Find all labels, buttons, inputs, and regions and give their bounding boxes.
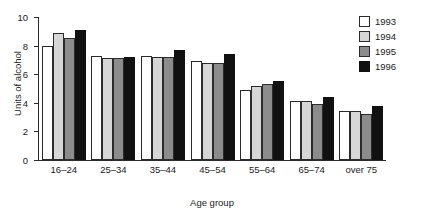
y-axis-tick: 4 <box>34 103 38 104</box>
x-axis-category-label: 55–64 <box>249 164 275 175</box>
bar-1995-35–44 <box>163 57 174 160</box>
plot-area: 0246810 16–2425–3435–4445–5455–6465–74ov… <box>38 17 386 160</box>
x-axis-category-label: 25–34 <box>100 164 126 175</box>
legend-item-1996: 1996 <box>359 59 396 74</box>
x-axis-category-label: over 75 <box>345 164 377 175</box>
bar-1996-45–54 <box>224 54 235 160</box>
x-axis-title: Age group <box>38 197 386 208</box>
legend-item-1994: 1994 <box>359 29 396 44</box>
bar-1993-55–64 <box>240 90 251 160</box>
x-axis-category-label: 35–44 <box>150 164 176 175</box>
y-axis-tick-label: 2 <box>23 126 28 137</box>
y-axis-tick: 10 <box>34 17 38 18</box>
bar-set <box>191 17 235 160</box>
legend-item-label: 1993 <box>375 16 396 27</box>
bar-1994-65–74 <box>301 101 312 160</box>
bar-1994-25–34 <box>102 58 113 160</box>
legend-item-1993: 1993 <box>359 14 396 29</box>
y-axis-tick: 8 <box>34 46 38 47</box>
bar-1994-35–44 <box>152 57 163 160</box>
bar-1993-16–24 <box>42 46 53 160</box>
bar-1993-65–74 <box>290 101 301 160</box>
bar-set <box>42 17 86 160</box>
legend-swatch-icon <box>359 31 370 42</box>
bar-1993-45–54 <box>191 61 202 160</box>
bar-groups: 16–2425–3435–4445–5455–6465–74over 75 <box>39 17 386 160</box>
y-axis-tick: 6 <box>34 74 38 75</box>
bar-1996-16–24 <box>75 30 86 160</box>
bar-1994-16–24 <box>53 33 64 160</box>
y-axis-tick: 0 <box>34 160 38 161</box>
x-axis-category-label: 65–74 <box>298 164 324 175</box>
x-axis-line <box>38 160 386 161</box>
bar-1993-over-75 <box>339 111 350 160</box>
legend-swatch-icon <box>359 46 370 57</box>
bar-1995-over-75 <box>361 114 372 160</box>
y-axis-tick-label: 0 <box>23 155 28 166</box>
y-axis-tick-label: 8 <box>23 40 28 51</box>
bar-1994-45–54 <box>202 63 213 160</box>
bar-group: 25–34 <box>89 17 139 160</box>
bar-1993-35–44 <box>141 56 152 160</box>
bar-1994-over-75 <box>350 111 361 160</box>
y-axis-tick-label: 6 <box>23 69 28 80</box>
legend-item-label: 1995 <box>375 46 396 57</box>
y-axis-title: Units of alcohol <box>12 29 23 139</box>
bar-group: 55–64 <box>237 17 287 160</box>
bar-group: 35–44 <box>138 17 188 160</box>
legend-swatch-icon <box>359 16 370 27</box>
bar-set <box>91 17 135 160</box>
y-axis-tick: 2 <box>34 131 38 132</box>
bar-1996-over-75 <box>372 106 383 160</box>
bar-1996-55–64 <box>273 81 284 160</box>
bar-1995-16–24 <box>64 38 75 160</box>
legend-item-label: 1994 <box>375 31 396 42</box>
bar-1995-45–54 <box>213 63 224 160</box>
bar-group: 45–54 <box>188 17 238 160</box>
bar-group: 16–24 <box>39 17 89 160</box>
x-axis-category-label: 45–54 <box>199 164 225 175</box>
legend-item-label: 1996 <box>375 61 396 72</box>
bar-chart: Units of alcohol 0246810 16–2425–3435–44… <box>0 0 424 222</box>
bar-1996-35–44 <box>174 50 185 160</box>
x-axis-category-label: 16–24 <box>51 164 77 175</box>
legend-item-1995: 1995 <box>359 44 396 59</box>
bar-set <box>240 17 284 160</box>
bar-1994-55–64 <box>251 86 262 160</box>
bar-1996-25–34 <box>124 57 135 160</box>
legend-swatch-icon <box>359 61 370 72</box>
bar-1995-25–34 <box>113 58 124 160</box>
y-axis-tick-label: 4 <box>23 97 28 108</box>
bar-set <box>290 17 334 160</box>
legend: 1993199419951996 <box>359 14 396 74</box>
y-axis-tick-label: 10 <box>17 12 28 23</box>
bar-1995-65–74 <box>312 104 323 160</box>
bar-group: 65–74 <box>287 17 337 160</box>
bar-1995-55–64 <box>262 84 273 160</box>
bar-1996-65–74 <box>323 97 334 160</box>
bar-set <box>141 17 185 160</box>
bar-1993-25–34 <box>91 56 102 160</box>
